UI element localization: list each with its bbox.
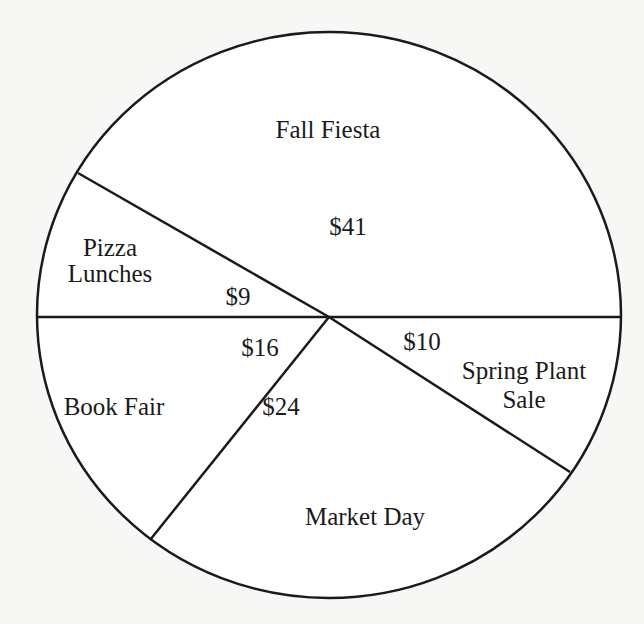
slice-label-pizza-lunches-line2: Lunches — [68, 260, 153, 287]
slice-value-market-day: $24 — [262, 393, 300, 420]
slice-value-spring-plant-sale: $10 — [403, 328, 441, 355]
slice-value-book-fair: $16 — [241, 334, 279, 361]
slice-label-fall-fiesta: Fall Fiesta — [276, 116, 381, 143]
slice-label-market-day: Market Day — [305, 503, 426, 530]
slice-value-pizza-lunches: $9 — [226, 283, 251, 310]
pie-chart: Fall Fiesta $41 Pizza Lunches $9 Book Fa… — [0, 0, 644, 624]
slice-label-spring-plant-sale-line2: Sale — [502, 386, 545, 413]
slice-value-fall-fiesta: $41 — [329, 213, 367, 240]
slice-label-spring-plant-sale-line1: Spring Plant — [462, 357, 586, 384]
slice-label-pizza-lunches-line1: Pizza — [83, 234, 137, 261]
slice-label-book-fair: Book Fair — [64, 393, 165, 420]
